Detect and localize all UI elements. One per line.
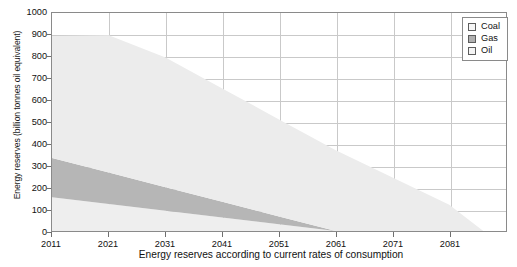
y-axis-tick-label: 600 <box>3 95 47 105</box>
y-axis-tick-label: 1000 <box>3 7 47 17</box>
y-axis-tick-label: 300 <box>3 161 47 171</box>
energy-reserves-chart-figure: Energy reserves (billion tonnes oil equi… <box>0 0 517 267</box>
x-axis-tick-mark <box>450 232 451 237</box>
y-axis-tick-label: 400 <box>3 139 47 149</box>
y-axis-tick-label: 0 <box>3 227 47 237</box>
x-axis-tick-mark <box>108 232 109 237</box>
x-axis-tick-label: 2031 <box>141 239 189 249</box>
legend-swatch-icon <box>468 47 476 55</box>
x-axis-tick-mark <box>279 232 280 237</box>
legend-item-oil[interactable]: Oil <box>468 45 500 57</box>
x-axis-tick-mark <box>222 232 223 237</box>
legend-item-coal[interactable]: Coal <box>468 21 500 33</box>
y-axis-tick-label: 100 <box>3 205 47 215</box>
legend-item-label: Coal <box>481 22 500 31</box>
x-axis-tick-label: 2051 <box>255 239 303 249</box>
legend-item-label: Oil <box>481 46 492 55</box>
x-axis-tick-label: 2071 <box>369 239 417 249</box>
x-axis-tick-label: 2061 <box>312 239 360 249</box>
x-axis-tick-mark <box>393 232 394 237</box>
legend-item-label: Gas <box>481 34 498 43</box>
y-axis-tick-label: 700 <box>3 73 47 83</box>
x-axis-tick-label: 2021 <box>84 239 132 249</box>
x-axis-tick-label: 2041 <box>198 239 246 249</box>
chart-caption: Energy reserves according to current rat… <box>51 249 491 260</box>
x-axis-tick-mark <box>165 232 166 237</box>
legend-item-gas[interactable]: Gas <box>468 33 500 45</box>
x-axis-tick-label: 2081 <box>426 239 474 249</box>
x-axis-tick-mark <box>51 232 52 237</box>
legend-swatch-icon <box>468 23 476 31</box>
x-axis-tick-mark <box>336 232 337 237</box>
y-axis-tick-label: 800 <box>3 51 47 61</box>
x-axis-tick-label: 2011 <box>27 239 75 249</box>
y-axis-tick-label: 900 <box>3 29 47 39</box>
y-axis-tick-label: 200 <box>3 183 47 193</box>
legend-swatch-icon <box>468 35 476 43</box>
plot-area: into water move thth it rain. They colle… <box>51 12 507 232</box>
stacked-area-series <box>52 13 506 231</box>
y-axis-ticks: 01002003004005006007008009001000 <box>0 12 47 232</box>
y-axis-tick-label: 500 <box>3 117 47 127</box>
chart-legend: CoalGasOil <box>462 17 508 61</box>
